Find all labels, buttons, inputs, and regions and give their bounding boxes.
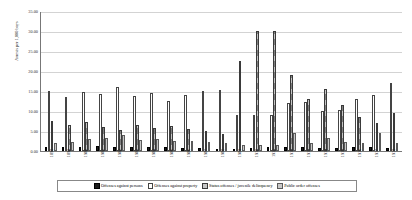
bar	[256, 31, 259, 151]
bar-group	[298, 12, 315, 151]
x-tick-group: 1901	[92, 152, 109, 174]
x-tick-group: 1910	[247, 152, 264, 174]
x-tick-group: 1913	[298, 152, 315, 174]
bar	[239, 61, 242, 151]
x-tick-label: 1911	[272, 149, 276, 157]
y-tick-label: 10.00	[14, 110, 38, 114]
chart-figure: Arrests per 1,000 boys 35.0030.0025.0020…	[0, 0, 412, 200]
x-tick-group: 1908	[212, 152, 229, 174]
legend-swatch-icon	[94, 183, 99, 188]
x-tick-label: 1900	[84, 149, 88, 157]
legend-label: Offenses against persons	[101, 184, 143, 188]
x-tick-label: 1917	[375, 149, 379, 157]
bar-group	[316, 12, 333, 151]
x-tick-group: 1916	[350, 152, 367, 174]
x-tick-label: 1918	[392, 149, 396, 157]
y-tick-label: 25.00	[14, 50, 38, 54]
x-tick-group: 1918	[384, 152, 401, 174]
bar	[273, 31, 276, 151]
x-tick-group: 1915	[332, 152, 349, 174]
x-tick-label: 1912	[290, 149, 294, 157]
bar-group	[162, 12, 179, 151]
bar	[105, 138, 108, 151]
bar-group	[213, 12, 230, 151]
x-tick-label: 1910	[255, 149, 259, 157]
bar-groups	[41, 12, 402, 151]
legend-item[interactable]: Offenses against property	[148, 183, 198, 188]
bar-group	[333, 12, 350, 151]
x-tick-label: 1902	[118, 149, 122, 157]
x-tick-group: 1907	[195, 152, 212, 174]
bar-group	[110, 12, 127, 151]
x-tick-label: 1913	[307, 149, 311, 157]
bar	[122, 135, 125, 151]
bar-group	[196, 12, 213, 151]
bar-group	[59, 12, 76, 151]
legend-label: Status offenses / juvenile delinquency	[209, 184, 272, 188]
bar-group	[76, 12, 93, 151]
x-tick-label: 1907	[204, 149, 208, 157]
bar	[139, 140, 142, 151]
x-tick-label: 1914	[324, 149, 328, 157]
bar-group	[350, 12, 367, 151]
x-tick-label: 1906	[187, 149, 191, 157]
bar	[156, 139, 159, 151]
bar-group	[179, 12, 196, 151]
x-tick-label: 1898	[50, 149, 54, 157]
bar-group	[247, 12, 264, 151]
chart-legend: Offenses against personsOffenses against…	[57, 180, 357, 192]
x-tick-label: 1909	[238, 149, 242, 157]
legend-label: Offenses against property	[154, 184, 197, 188]
legend-item[interactable]: Status offenses / juvenile delinquency	[202, 183, 272, 188]
bar	[54, 143, 57, 151]
x-tick-group: 1898	[41, 152, 58, 174]
bar-group	[42, 12, 59, 151]
bar	[71, 142, 74, 151]
y-tick-label: 15.00	[14, 90, 38, 94]
x-tick-group: 1902	[110, 152, 127, 174]
x-tick-group: 1911	[264, 152, 281, 174]
bar-group	[145, 12, 162, 151]
bar	[88, 139, 91, 151]
x-tick-group: 1914	[315, 152, 332, 174]
legend-swatch-icon	[148, 183, 153, 188]
x-tick-group: 1917	[367, 152, 384, 174]
x-tick-group: 1912	[281, 152, 298, 174]
x-tick-group: 1904	[144, 152, 161, 174]
bar-group	[264, 12, 281, 151]
y-tick-label: 20.00	[14, 70, 38, 74]
y-axis-tick-labels: 35.0030.0025.0020.0015.0010.005.000.00	[14, 12, 38, 152]
bar-group	[384, 12, 401, 151]
bar	[276, 145, 279, 151]
x-tick-group: 1900	[75, 152, 92, 174]
x-tick-label: 1916	[358, 149, 362, 157]
x-tick-group: 1909	[230, 152, 247, 174]
x-tick-label: 1905	[170, 149, 174, 157]
y-tick-label: 30.00	[14, 30, 38, 34]
x-tick-group: 1903	[127, 152, 144, 174]
x-tick-label: 1899	[67, 149, 71, 157]
bar-group	[281, 12, 298, 151]
legend-swatch-icon	[202, 183, 207, 188]
x-tick-group: 1905	[161, 152, 178, 174]
x-tick-label: 1901	[101, 149, 105, 157]
legend-label: Public order offenses	[284, 184, 320, 188]
x-axis-tick-labels: 1898189919001901190219031904190519061907…	[40, 152, 402, 174]
x-tick-label: 1915	[341, 149, 345, 157]
legend-swatch-icon	[277, 183, 282, 188]
y-tick-label: 0.00	[14, 150, 38, 154]
bar-group	[367, 12, 384, 151]
bar	[242, 145, 245, 151]
y-tick-label: 35.00	[14, 10, 38, 14]
plot-area	[40, 12, 402, 152]
bar-group	[93, 12, 110, 151]
x-tick-label: 1908	[221, 149, 225, 157]
x-tick-label: 1903	[135, 149, 139, 157]
x-tick-group: 1899	[58, 152, 75, 174]
legend-item[interactable]: Public order offenses	[277, 183, 319, 188]
legend-item[interactable]: Offenses against persons	[94, 183, 142, 188]
y-tick-label: 5.00	[14, 130, 38, 134]
bar	[259, 145, 262, 151]
x-tick-group: 1906	[178, 152, 195, 174]
bar-group	[127, 12, 144, 151]
